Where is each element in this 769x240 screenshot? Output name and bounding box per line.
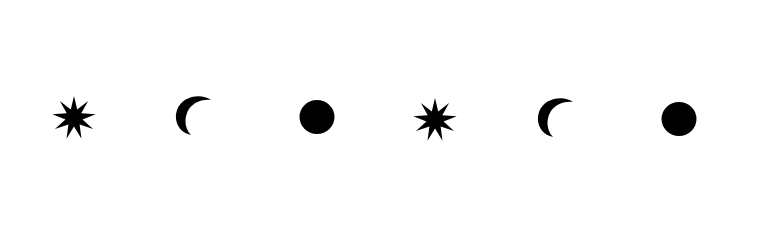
circle-icon — [299, 99, 335, 135]
star-icon — [50, 95, 98, 141]
crescent-icon — [174, 94, 214, 136]
crescent-icon — [536, 96, 576, 138]
star-icon — [411, 97, 459, 143]
circle-icon — [661, 101, 697, 137]
